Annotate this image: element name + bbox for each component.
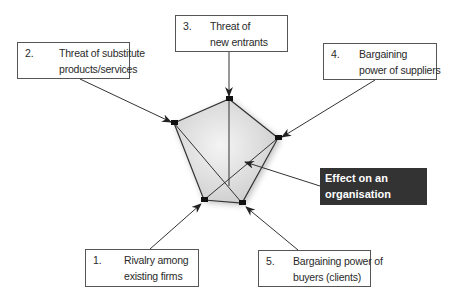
effect-on-organisation-box: Effect on an organisation bbox=[320, 168, 427, 205]
vertex-marker-right bbox=[275, 135, 282, 140]
force-label-line1: Bargaining bbox=[359, 46, 407, 62]
force-label-line2: buyers (clients) bbox=[293, 269, 361, 285]
arrow-force-2 bbox=[80, 79, 171, 122]
force-label-line2: existing firms bbox=[124, 268, 182, 284]
force-number: 2. bbox=[25, 45, 33, 61]
force-label-line1: Rivalry among bbox=[124, 252, 189, 268]
effect-label-line2: organisation bbox=[325, 186, 422, 202]
force-box-substitutes: 2. Threat of substitute products/service… bbox=[17, 42, 130, 79]
force-number: 1. bbox=[93, 252, 101, 268]
force-label-line1: Bargaining power of bbox=[293, 253, 383, 269]
force-number: 4. bbox=[331, 46, 339, 62]
force-box-rivalry: 1. Rivalry among existing firms bbox=[85, 249, 199, 287]
vertex-marker-bottom-right bbox=[239, 200, 246, 205]
force-box-new-entrants: 3. Threat of new entrants bbox=[175, 15, 288, 52]
vertex-marker-bottom-left bbox=[201, 197, 208, 202]
arrow-force-1 bbox=[150, 204, 201, 249]
force-number: 5. bbox=[266, 253, 274, 269]
arrow-force-5 bbox=[246, 207, 298, 250]
force-box-suppliers: 4. Bargaining power of suppliers bbox=[323, 43, 437, 80]
arrow-force-4 bbox=[282, 80, 375, 137]
vertex-marker-left bbox=[171, 120, 178, 125]
effect-label-line1: Effect on an bbox=[325, 170, 422, 186]
force-number: 3. bbox=[183, 18, 191, 34]
force-label-line2: new entrants bbox=[210, 34, 268, 50]
force-label-line2: power of suppliers bbox=[359, 62, 441, 78]
force-label-line1: Threat of bbox=[210, 18, 250, 34]
force-label-line1: Threat of substitute bbox=[59, 45, 145, 61]
force-label-line2: products/services bbox=[59, 61, 137, 77]
vertex-marker-top bbox=[226, 96, 233, 101]
force-box-buyers: 5. Bargaining power of buyers (clients) bbox=[258, 250, 371, 287]
